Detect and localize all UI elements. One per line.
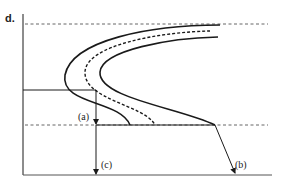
label-b: (b): [235, 159, 247, 171]
diagram-canvas: d. (a) (c) (b): [0, 0, 288, 186]
label-a: (a): [78, 111, 89, 123]
y-axis-label: d.: [5, 12, 15, 24]
label-c: (c): [101, 159, 112, 171]
outer-curve: [65, 25, 220, 125]
arrow-b: [215, 125, 235, 173]
